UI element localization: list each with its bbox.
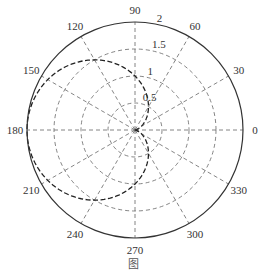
angle-tick-label: 270	[127, 244, 144, 256]
radial-tick-label: 1	[147, 65, 153, 77]
angle-tick-label: 150	[23, 64, 40, 76]
data-curve	[27, 60, 149, 200]
radial-tick-label: 1.5	[152, 38, 166, 50]
series-line	[27, 60, 149, 200]
angle-tick-label: 30	[233, 64, 245, 76]
angle-tick-label: 300	[187, 228, 204, 240]
angle-tick-label: 60	[189, 20, 201, 32]
figure-caption: 图	[128, 258, 139, 270]
angle-tick-label: 180	[7, 124, 24, 136]
angle-tick-label: 90	[130, 4, 142, 16]
angle-tick-label: 0	[252, 124, 258, 136]
polar-chart: 03060901201501802102402703003300.511.52 …	[0, 0, 270, 270]
angle-tick-label: 210	[23, 184, 40, 196]
radial-tick-label: 0.5	[143, 91, 157, 103]
angle-tick-label: 240	[67, 228, 84, 240]
angle-tick-label: 330	[231, 184, 248, 196]
radial-tick-label: 2	[157, 12, 163, 24]
angle-tick-label: 120	[67, 20, 84, 32]
